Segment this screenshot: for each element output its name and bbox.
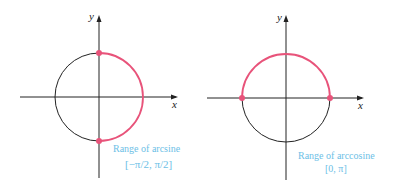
point-bottom bbox=[96, 138, 102, 144]
arccosine-range: [0, π] bbox=[325, 163, 347, 174]
y-axis-label: y bbox=[277, 11, 282, 23]
x-axis-label: x bbox=[172, 98, 177, 110]
arcsine-range: [−π/2, π/2] bbox=[125, 158, 172, 170]
point-left bbox=[239, 95, 245, 101]
arccosine-caption: Range of arccosine bbox=[298, 150, 375, 161]
y-axis-label: y bbox=[89, 10, 94, 22]
y-axis-arrow-icon bbox=[284, 15, 289, 22]
y-axis-arrow-icon bbox=[97, 15, 102, 22]
point-right bbox=[327, 95, 333, 101]
point-top bbox=[96, 50, 102, 56]
arcsine-caption: Range of arcsine bbox=[113, 143, 180, 154]
x-axis-label: x bbox=[358, 99, 363, 111]
